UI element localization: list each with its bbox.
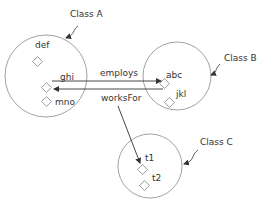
worksfor-label: worksFor bbox=[101, 93, 142, 103]
instance-mno-diamond bbox=[42, 97, 52, 107]
class-c-circle bbox=[118, 134, 182, 198]
instance-t2-diamond bbox=[140, 181, 150, 191]
instance-def-diamond bbox=[33, 57, 43, 67]
instance-t2-label: t2 bbox=[152, 173, 161, 183]
instance-ghi-diamond bbox=[42, 83, 52, 93]
class-b-label: Class B bbox=[224, 53, 257, 63]
class-c-label: Class C bbox=[200, 137, 233, 147]
class-c-pointer bbox=[184, 150, 198, 164]
class-a-group: Class A def ghi mno bbox=[5, 9, 104, 117]
instance-abc-label: abc bbox=[166, 70, 182, 80]
class-b-group: Class B abc jkl bbox=[143, 42, 257, 110]
instance-ghi-label: ghi bbox=[60, 72, 74, 82]
class-a-label: Class A bbox=[70, 9, 104, 19]
class-a-pointer bbox=[66, 26, 78, 38]
instance-t1-label: t1 bbox=[145, 153, 154, 163]
class-c-group: Class C t1 t2 bbox=[118, 134, 233, 198]
instance-jkl-diamond bbox=[165, 98, 175, 108]
instance-t1-diamond bbox=[138, 165, 148, 175]
employs-label: employs bbox=[100, 68, 138, 78]
instance-def-label: def bbox=[35, 40, 50, 50]
worksfor-t1-arrow bbox=[118, 106, 140, 163]
class-instance-diagram: Class A def ghi mno Class B abc jkl Clas… bbox=[0, 0, 262, 207]
instance-mno-label: mno bbox=[55, 97, 75, 107]
instance-abc-diamond bbox=[160, 79, 170, 89]
class-b-pointer bbox=[211, 64, 220, 75]
relations-group: employs worksFor bbox=[52, 68, 163, 163]
instance-jkl-label: jkl bbox=[175, 89, 186, 99]
